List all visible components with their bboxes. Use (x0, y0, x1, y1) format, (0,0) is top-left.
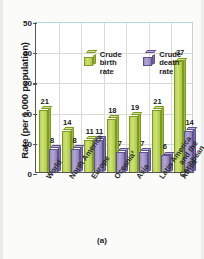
y-axis-tick-label: 50 (23, 19, 32, 28)
bar-value-label: 7 (140, 139, 144, 148)
bar-value-label: 21 (41, 97, 49, 106)
legend-label: Crudebirth rate (100, 51, 130, 76)
legend-label-line2: death rate (159, 59, 192, 76)
y-axis-tick-mark (33, 114, 37, 115)
y-axis-tick-label: 20 (23, 109, 32, 118)
legend-swatch-cube-icon (143, 53, 155, 66)
legend-cube-top (85, 50, 97, 53)
bar-group: 216 (152, 22, 175, 173)
bar-face (107, 119, 116, 173)
bar-group: 148 (62, 22, 85, 173)
bar-value-label: 14 (185, 118, 193, 127)
chart-legend: Crudebirth rateCrudedeath rate (84, 51, 192, 76)
legend-label-line2: birth rate (100, 59, 130, 76)
page-right-edge (201, 0, 204, 259)
bar-value-label: 8 (50, 136, 54, 145)
bar-crude-birth-rate (62, 131, 71, 173)
legend-swatch-cube-icon (84, 53, 96, 66)
legend-cube-top (145, 50, 157, 53)
bar-value-label: 19 (131, 103, 139, 112)
y-axis-tick-label: 40 (23, 49, 32, 58)
y-axis-tick-label: 0 (28, 170, 32, 179)
y-axis-tick-mark (33, 23, 37, 24)
y-axis-tick-mark (33, 144, 37, 145)
bar-value-label: 18 (108, 106, 116, 115)
legend-item-crude-birth-rate: Crudebirth rate (84, 51, 129, 76)
legend-cube-side (152, 54, 155, 65)
y-axis-tick-label: 10 (23, 139, 32, 148)
bar-face (152, 110, 161, 173)
bar-face (62, 131, 71, 173)
bar-value-label: 7 (118, 139, 122, 148)
bar-crude-birth-rate (152, 110, 161, 173)
bar-group: 218 (39, 22, 62, 173)
bar-crude-birth-rate (107, 119, 116, 173)
y-axis-tick-mark (33, 174, 37, 175)
bar-value-label: 6 (163, 142, 167, 151)
bar-value-label: 8 (73, 136, 77, 145)
bar-group: 187 (107, 22, 130, 173)
bar-value-label: 21 (153, 97, 161, 106)
legend-item-crude-death-rate: Crudedeath rate (143, 51, 192, 76)
plot-area: 01020304050 21814811111871972163714 Crud… (35, 22, 193, 173)
page-left-edge (0, 0, 3, 259)
bar-value-label: 11 (86, 127, 94, 136)
y-axis-tick-mark (33, 83, 37, 84)
figure-caption: (a) (0, 236, 204, 245)
bar-value-label: 14 (63, 118, 71, 127)
legend-label: Crudedeath rate (159, 51, 192, 76)
y-axis-tick-label: 30 (23, 79, 32, 88)
y-axis-tick-mark (33, 53, 37, 54)
bar-crude-birth-rate (39, 110, 48, 173)
legend-cube-side (93, 54, 96, 65)
bar-face (39, 110, 48, 173)
chart-figure: Rate (per 1,000 population) 01020304050 … (0, 0, 204, 259)
legend-cube-face (84, 57, 93, 66)
